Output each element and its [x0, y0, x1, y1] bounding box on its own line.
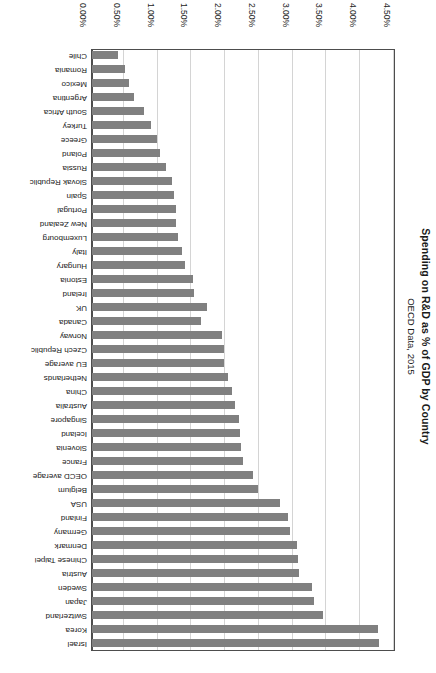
bar-row[interactable] — [92, 625, 395, 633]
bar-row[interactable] — [92, 373, 395, 381]
bar[interactable] — [92, 345, 224, 353]
bar[interactable] — [92, 51, 118, 59]
bar-row[interactable] — [92, 359, 395, 367]
bar[interactable] — [92, 107, 144, 115]
bar[interactable] — [92, 65, 125, 73]
category-label: Switzerland — [46, 612, 87, 620]
category-label: Slovenia — [56, 444, 87, 452]
bar-row[interactable] — [92, 65, 395, 73]
bar[interactable] — [92, 499, 280, 507]
category-label: Greece — [61, 136, 87, 144]
bar[interactable] — [92, 219, 176, 227]
bar[interactable] — [92, 149, 160, 157]
bar[interactable] — [92, 443, 241, 451]
bar[interactable] — [92, 359, 224, 367]
bar[interactable] — [92, 541, 297, 549]
bar[interactable] — [92, 639, 379, 647]
bar[interactable] — [92, 611, 323, 619]
bar-row[interactable] — [92, 387, 395, 395]
bar-row[interactable] — [92, 107, 395, 115]
bar[interactable] — [92, 569, 299, 577]
bar[interactable] — [92, 415, 239, 423]
bar-row[interactable] — [92, 233, 395, 241]
bar-row[interactable] — [92, 219, 395, 227]
bar-row[interactable] — [92, 345, 395, 353]
bar-row[interactable] — [92, 639, 395, 647]
bar[interactable] — [92, 401, 235, 409]
tick-label: 1.00% — [146, 3, 155, 27]
bar[interactable] — [92, 583, 312, 591]
bar-row[interactable] — [92, 331, 395, 339]
bar-row[interactable] — [92, 135, 395, 143]
bar-row[interactable] — [92, 569, 395, 577]
bar-row[interactable] — [92, 485, 395, 493]
bar-row[interactable] — [92, 583, 395, 591]
bar-row[interactable] — [92, 79, 395, 87]
category-label: Estonia — [60, 276, 87, 284]
bar[interactable] — [92, 205, 176, 213]
bar-row[interactable] — [92, 597, 395, 605]
bar[interactable] — [92, 387, 232, 395]
bar-row[interactable] — [92, 191, 395, 199]
bar[interactable] — [92, 93, 134, 101]
bar-row[interactable] — [92, 163, 395, 171]
tick-label: 4.00% — [349, 3, 358, 27]
bar[interactable] — [92, 457, 243, 465]
bar[interactable] — [92, 527, 290, 535]
bar-row[interactable] — [92, 415, 395, 423]
bar[interactable] — [92, 247, 182, 255]
category-label: EU average — [45, 360, 87, 368]
bar-row[interactable] — [92, 317, 395, 325]
bar[interactable] — [92, 597, 314, 605]
bar[interactable] — [92, 135, 157, 143]
bar[interactable] — [92, 317, 201, 325]
bar[interactable] — [92, 177, 172, 185]
bar-row[interactable] — [92, 51, 395, 59]
bar[interactable] — [92, 275, 193, 283]
bar-row[interactable] — [92, 443, 395, 451]
bar[interactable] — [92, 555, 298, 563]
bar[interactable] — [92, 429, 240, 437]
bar-row[interactable] — [92, 541, 395, 549]
bar[interactable] — [92, 485, 258, 493]
category-label: Japan — [65, 598, 87, 606]
bar-row[interactable] — [92, 401, 395, 409]
category-axis-labels: IsraelKoreaSwitzerlandJapanSwedenAustria… — [0, 49, 89, 651]
bar[interactable] — [92, 471, 253, 479]
category-label: Singapore — [51, 416, 87, 424]
bar-row[interactable] — [92, 149, 395, 157]
bar-row[interactable] — [92, 303, 395, 311]
bar-row[interactable] — [92, 611, 395, 619]
bar-row[interactable] — [92, 555, 395, 563]
bar[interactable] — [92, 331, 222, 339]
bar-row[interactable] — [92, 513, 395, 521]
bar[interactable] — [92, 261, 185, 269]
bar[interactable] — [92, 163, 166, 171]
bar[interactable] — [92, 289, 194, 297]
bar[interactable] — [92, 191, 174, 199]
bar-row[interactable] — [92, 275, 395, 283]
bar-row[interactable] — [92, 429, 395, 437]
bar[interactable] — [92, 79, 129, 87]
chart-figure-rotator: Spending on R&D as % of GDP by Country O… — [0, 0, 436, 673]
category-label: Belgium — [58, 486, 87, 494]
category-label: Poland — [62, 150, 87, 158]
category-label: New Zealand — [40, 220, 87, 228]
bar-row[interactable] — [92, 247, 395, 255]
bar[interactable] — [92, 513, 288, 521]
bar-row[interactable] — [92, 527, 395, 535]
bar-row[interactable] — [92, 499, 395, 507]
bar[interactable] — [92, 373, 228, 381]
bar[interactable] — [92, 121, 151, 129]
bar-row[interactable] — [92, 457, 395, 465]
bar[interactable] — [92, 233, 178, 241]
bar[interactable] — [92, 303, 207, 311]
bar-row[interactable] — [92, 205, 395, 213]
bar-row[interactable] — [92, 289, 395, 297]
bar-row[interactable] — [92, 261, 395, 269]
bar-row[interactable] — [92, 177, 395, 185]
bar-row[interactable] — [92, 121, 395, 129]
bar-row[interactable] — [92, 93, 395, 101]
bar[interactable] — [92, 625, 378, 633]
bar-row[interactable] — [92, 471, 395, 479]
